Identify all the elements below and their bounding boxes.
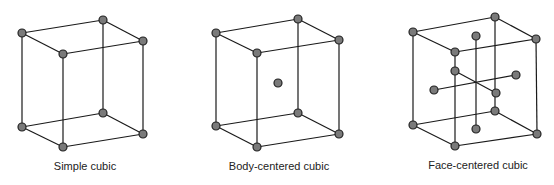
- lattice-edge: [22, 20, 103, 33]
- atom-icon: [409, 28, 417, 36]
- atom-icon: [409, 121, 417, 129]
- atom-icon: [212, 122, 220, 130]
- atom-icon: [18, 123, 26, 131]
- lattice-edge: [103, 113, 143, 134]
- atom-icon: [532, 35, 540, 43]
- lattice-edge: [413, 32, 455, 52]
- lattice-edge: [216, 19, 298, 33]
- lattice-edge: [22, 33, 63, 54]
- cube-face-centered-cubic: [409, 13, 541, 150]
- atom-icon: [472, 32, 480, 40]
- atom-icon: [294, 15, 302, 23]
- atom-icon: [533, 130, 541, 138]
- atom-icon: [430, 86, 438, 94]
- lattice-edge: [22, 127, 63, 147]
- atom-icon: [59, 143, 67, 151]
- atom-icon: [253, 143, 261, 151]
- atom-icon: [491, 107, 499, 115]
- atom-icon: [451, 67, 459, 75]
- lattice-edge: [413, 125, 455, 146]
- atom-icon: [18, 29, 26, 37]
- atom-icon: [472, 125, 480, 133]
- atom-icon: [492, 89, 500, 97]
- atom-icon: [451, 142, 459, 150]
- lattice-edge: [413, 111, 495, 125]
- cube-body-centered-cubic: [212, 15, 343, 151]
- lattice-edge: [63, 134, 143, 147]
- atom-icon: [139, 130, 147, 138]
- lattice-edge: [536, 39, 537, 134]
- lattice-edge: [434, 75, 516, 90]
- lattice-edge: [257, 134, 339, 147]
- atom-icon: [491, 13, 499, 21]
- lattice-edge: [413, 17, 495, 32]
- lattice-edge: [298, 19, 339, 40]
- lattice-edge: [298, 113, 339, 134]
- atom-icon: [294, 109, 302, 117]
- lattice-edge: [216, 33, 257, 53]
- atom-icon: [99, 16, 107, 24]
- lattice-edge: [495, 111, 537, 134]
- cube-simple-cubic: [18, 16, 147, 151]
- label-simple-cubic: Simple cubic: [54, 160, 116, 172]
- atom-icon: [139, 37, 147, 45]
- lattice-edge: [455, 134, 537, 146]
- atom-icon: [335, 130, 343, 138]
- atom-icon: [253, 49, 261, 57]
- atom-icon: [59, 50, 67, 58]
- label-face-centered-cubic: Face-centered cubic: [428, 159, 528, 171]
- atom-icon: [451, 48, 459, 56]
- lattice-edge: [216, 126, 257, 147]
- atom-icon: [212, 29, 220, 37]
- atom-icon: [335, 36, 343, 44]
- lattice-edge: [103, 20, 143, 41]
- crystal-lattice-diagrams: [0, 0, 554, 185]
- lattice-edge: [495, 17, 536, 39]
- label-body-centered-cubic: Body-centered cubic: [229, 160, 329, 172]
- atom-icon: [99, 109, 107, 117]
- atom-icon: [274, 79, 282, 87]
- atom-icon: [512, 71, 520, 79]
